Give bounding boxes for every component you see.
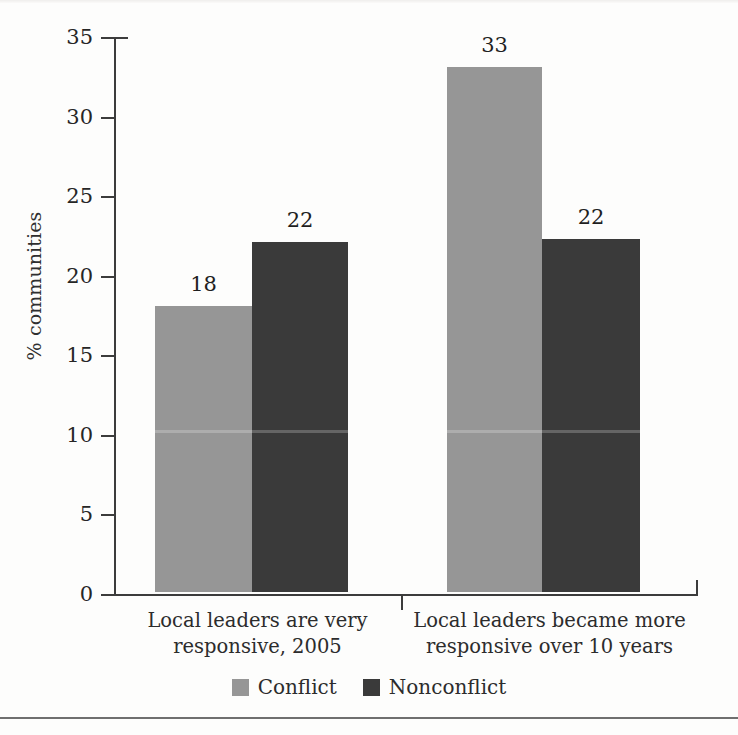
scan-streak [155,430,252,433]
y-tick-mark: 0 [101,594,114,596]
y-tick-label: 30 [66,105,93,129]
category-label-line: responsive over 10 years [401,634,698,660]
category-label-line: Local leaders became more [401,608,698,634]
x-axis-category-label-2: Local leaders became more responsive ove… [401,608,698,661]
bar-group1-conflict[interactable]: 18 [155,306,252,593]
y-tick-label: 35 [66,25,93,49]
bar-value-label: 33 [481,33,508,57]
y-tick-label: 5 [80,502,93,526]
legend-item-nonconflict[interactable]: Nonconflict [363,675,507,699]
bar-group2-nonconflict[interactable]: 22 [542,239,640,592]
legend-swatch-icon-conflict [232,679,249,696]
bar-value-label: 22 [287,208,314,232]
scan-streak [252,430,348,433]
y-tick-label: 10 [66,423,93,447]
x-axis-end-cap [696,580,698,596]
category-label-line: responsive, 2005 [114,634,401,660]
y-tick-mark: 25 [101,196,114,198]
y-axis-line [114,37,116,596]
plot-area: 0 5 10 15 20 25 [114,37,698,594]
x-axis-line [114,594,698,596]
y-axis-top-cap [114,37,128,39]
category-label-line: Local leaders are very [114,608,401,634]
y-tick-mark: 20 [101,276,114,278]
y-axis-title: % communities [23,186,45,386]
y-tick-mark: 35 [101,37,114,39]
chart-legend: Conflict Nonconflict [0,675,738,699]
legend-item-conflict[interactable]: Conflict [232,675,337,699]
legend-label-conflict: Conflict [258,675,337,699]
bar-value-label: 22 [578,205,605,229]
bar-group1-nonconflict[interactable]: 22 [252,242,348,592]
bar-value-label: 18 [190,272,217,296]
y-tick-label: 15 [66,343,93,367]
y-tick-mark: 30 [101,117,114,119]
y-tick-label: 25 [66,184,93,208]
scan-streak [542,430,640,433]
y-tick-mark: 10 [101,435,114,437]
x-axis-category-label-1: Local leaders are very responsive, 2005 [114,608,401,661]
y-tick-mark: 15 [101,355,114,357]
bar-chart-figure: % communities 0 5 10 15 [0,0,738,735]
legend-swatch-icon-nonconflict [363,679,380,696]
scan-streak [447,430,542,433]
bar-group2-conflict[interactable]: 33 [447,67,542,592]
y-tick-mark: 5 [101,514,114,516]
legend-label-nonconflict: Nonconflict [389,675,507,699]
y-tick-label: 20 [66,264,93,288]
page-bottom-rule [0,717,738,719]
y-tick-label: 0 [80,582,93,606]
